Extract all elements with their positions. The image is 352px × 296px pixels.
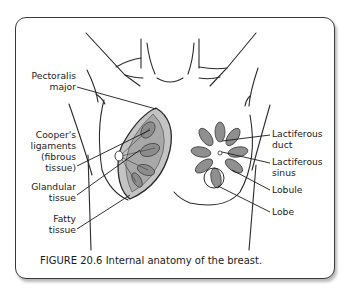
right-breast-front-view [190,122,248,189]
label-lactiferous-sinus: Lactiferous sinus [272,156,323,178]
right-nipple [218,151,222,155]
left-breast-cross-section [115,108,171,199]
label-fatty-tissue: Fatty tissue [14,213,76,235]
label-lactiferous-duct: Lactiferous duct [272,128,323,150]
collarbone-dip [157,78,183,82]
label-pectoralis-major: Pectoralis major [14,70,76,92]
figure-caption: FIGURE 20.6 Internal anatomy of the brea… [40,255,262,266]
nipple [115,151,123,161]
label-lobe: Lobe [272,206,294,217]
right-arm-line [252,105,270,170]
leader-lines [77,87,270,229]
label-coopers-ligaments: Cooper's ligaments (fibrous tissue) [14,129,76,173]
right-armpit-line [249,68,258,106]
right-torso-line [249,165,256,250]
left-armpit-line [87,70,98,102]
label-glandular-tissue: Glandular tissue [14,181,76,203]
label-lobule: Lobule [272,184,302,195]
